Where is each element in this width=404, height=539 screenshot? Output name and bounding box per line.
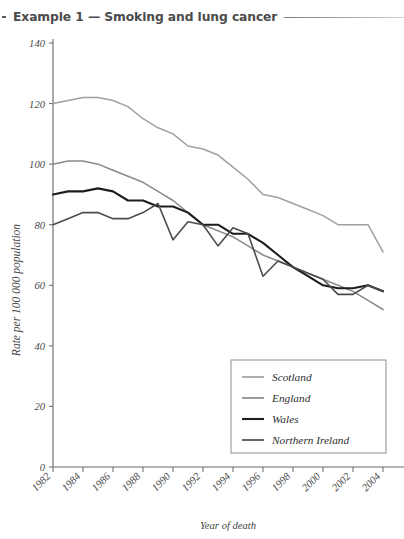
x-tick-label: 1984 bbox=[60, 470, 83, 493]
y-tick-label: 40 bbox=[34, 341, 45, 352]
x-tick-label: 1982 bbox=[30, 470, 53, 493]
x-axis-title: Year of death bbox=[200, 520, 256, 531]
x-tick-label: 1996 bbox=[240, 470, 263, 493]
legend-label-northern-ireland[interactable]: Northern Ireland bbox=[271, 434, 349, 446]
x-axis: 1982198419861988199019921994199619982000… bbox=[30, 467, 404, 493]
y-tick-label: 120 bbox=[29, 99, 46, 110]
series-line-scotland bbox=[53, 98, 383, 252]
x-tick-label: 1998 bbox=[270, 470, 293, 493]
y-tick-label: 60 bbox=[34, 280, 45, 291]
x-tick-label: 1992 bbox=[180, 470, 203, 493]
series-line-northern-ireland bbox=[53, 204, 383, 295]
x-tick-label: 2000 bbox=[300, 470, 323, 493]
series-line-wales bbox=[53, 188, 383, 291]
legend-label-wales[interactable]: Wales bbox=[272, 413, 299, 425]
y-axis-title: Rate per 100 000 population bbox=[10, 224, 23, 357]
y-tick-label: 80 bbox=[34, 220, 45, 231]
figure-container: Example 1 — Smoking and lung cancer 0204… bbox=[0, 0, 404, 539]
legend-label-england[interactable]: England bbox=[271, 392, 311, 404]
y-tick-label: 100 bbox=[29, 159, 46, 170]
line-chart: 020406080100120140 198219841986198819901… bbox=[0, 0, 404, 539]
x-tick-label: 2004 bbox=[360, 470, 383, 493]
y-tick-label: 20 bbox=[34, 401, 45, 412]
x-tick-label: 1986 bbox=[90, 470, 113, 493]
y-tick-label: 140 bbox=[29, 38, 46, 49]
y-axis: 020406080100120140 bbox=[29, 38, 53, 473]
chart-legend[interactable]: ScotlandEnglandWalesNorthern Ireland bbox=[231, 360, 386, 453]
x-tick-label: 1988 bbox=[120, 470, 143, 493]
x-tick-label: 2002 bbox=[330, 470, 353, 493]
x-tick-label: 1990 bbox=[150, 470, 173, 493]
legend-label-scotland[interactable]: Scotland bbox=[272, 371, 312, 383]
series-lines bbox=[53, 98, 383, 310]
x-tick-label: 1994 bbox=[210, 470, 233, 493]
